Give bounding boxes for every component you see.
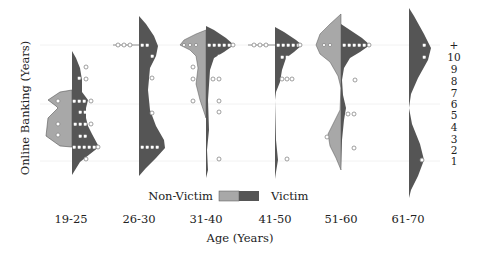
x-tick-labels: 19-25 26-30 31-40 41-50 51-60 61-70 <box>54 212 424 226</box>
y-axis-title: Online Banking (Years) <box>18 41 32 175</box>
points-victim-outside <box>84 43 424 162</box>
x-axis-title: Age (Years) <box>206 231 274 245</box>
legend-label-victim: Victim <box>270 189 309 203</box>
violin-31-40 <box>180 26 234 178</box>
legend-label-nonvictim: Non-Victim <box>148 189 213 203</box>
violin-nonvictim-19-25 <box>46 90 72 147</box>
y-tick-plus: + <box>450 39 459 51</box>
legend-swatch-nonvictim <box>219 191 239 201</box>
violin-victim-41-50 <box>275 27 302 179</box>
y-tick-8: 8 <box>451 75 458 87</box>
legend-swatch-victim <box>239 191 259 201</box>
x-tick-51-60: 51-60 <box>324 212 357 226</box>
y-tick-10: 10 <box>447 51 460 63</box>
violin-victim-61-70 <box>409 8 431 198</box>
x-tick-19-25: 19-25 <box>54 212 87 226</box>
violin-chart: Online Banking (Years) + 10 9 8 7 6 5 4 … <box>0 0 480 254</box>
y-tick-4: 4 <box>451 121 458 133</box>
violin-victim-26-30 <box>139 16 165 176</box>
x-tick-61-70: 61-70 <box>391 212 424 226</box>
gridlines <box>40 45 440 161</box>
y-tick-labels: + 10 9 8 7 6 5 4 3 2 1 <box>447 39 460 167</box>
x-tick-41-50: 41-50 <box>258 212 291 226</box>
y-tick-5: 5 <box>451 109 458 121</box>
violin-19-25 <box>46 51 99 175</box>
violin-26-30 <box>113 16 165 176</box>
x-tick-26-30: 26-30 <box>122 212 155 226</box>
violin-41-50 <box>248 27 302 179</box>
points-victim <box>73 44 425 148</box>
y-tick-1: 1 <box>451 155 458 167</box>
points-nonvictim <box>56 43 332 139</box>
violin-61-70 <box>409 8 431 198</box>
legend: Non-Victim Victim <box>148 189 308 203</box>
y-tick-9: 9 <box>451 63 458 75</box>
x-tick-31-40: 31-40 <box>189 212 222 226</box>
violin-51-60 <box>316 14 370 170</box>
violin-nonvictim-51-60 <box>316 14 341 170</box>
